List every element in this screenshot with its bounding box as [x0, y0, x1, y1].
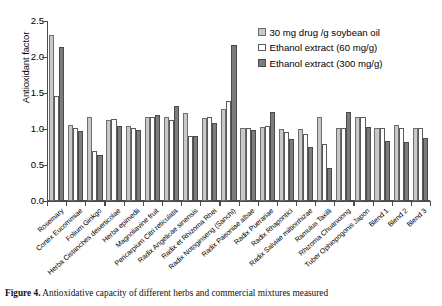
x-axis-label: Herba Cistanches deserticolae	[46, 207, 122, 277]
x-axis-label: Radix Puerariae	[233, 207, 276, 246]
x-axis-label: Blend 3	[406, 207, 429, 229]
bar	[78, 131, 83, 201]
x-tick-mark	[143, 201, 144, 206]
bar-group	[47, 21, 66, 201]
legend-label: Ethanol extract (60 mg/g)	[270, 42, 378, 53]
legend-item: 30 mg drug /g soybean oil	[258, 25, 436, 39]
bar	[155, 115, 160, 201]
x-axis-label: Folium Ginkgo	[64, 207, 103, 243]
bar	[289, 139, 294, 201]
y-tick-label: 2.5	[31, 15, 44, 26]
x-tick-mark	[47, 201, 48, 206]
chart-plot-area: Antioxidant factor 0.00.51.01.52.02.5 Ro…	[0, 0, 442, 282]
legend-swatch-icon	[258, 28, 266, 36]
x-tick-mark	[200, 201, 201, 206]
x-tick-mark	[124, 201, 125, 206]
x-axis-label: Radix et Rhizoma Rhei	[160, 207, 218, 261]
bar	[97, 155, 102, 201]
x-tick-mark	[430, 201, 431, 206]
x-tick-mark	[334, 201, 335, 206]
chart-legend: 30 mg drug /g soybean oilEthanol extract…	[258, 25, 436, 72]
bar	[212, 123, 217, 201]
bar	[59, 47, 64, 201]
legend-item: Ethanol extract (300 mg/g)	[258, 56, 436, 70]
bar	[270, 112, 275, 201]
x-tick-mark	[373, 201, 374, 206]
y-tick-label: 0.0	[31, 195, 44, 206]
x-axis-label: Rosemary	[36, 207, 65, 234]
bar-group	[124, 21, 143, 201]
bar	[385, 141, 390, 201]
bar	[117, 126, 122, 201]
x-tick-mark	[315, 201, 316, 206]
legend-label: Ethanol extract (300 mg/g)	[270, 58, 383, 69]
x-axis-label: Blend 2	[387, 207, 410, 229]
x-tick-mark	[85, 201, 86, 206]
x-axis-label: Rhizoma Chuanxiong	[297, 207, 352, 258]
x-tick-mark	[239, 201, 240, 206]
x-tick-mark	[181, 201, 182, 206]
y-tick-label: 1.5	[31, 87, 44, 98]
caption-label: Figure 4.	[5, 288, 40, 298]
bar	[423, 138, 428, 201]
x-tick-mark	[296, 201, 297, 206]
x-tick-mark	[277, 201, 278, 206]
legend-swatch-icon	[258, 44, 266, 52]
x-axis-label: Magnoliavine fruit	[115, 207, 161, 250]
bar-group	[219, 21, 238, 201]
bar	[174, 106, 179, 201]
x-axis-label: Herba epimedii	[101, 207, 141, 244]
x-tick-mark	[66, 201, 67, 206]
y-tick-label: 2.0	[31, 51, 44, 62]
x-axis-label: Radix Rhapontici	[250, 207, 295, 248]
x-axis-label: Radix Salviae miltiorrhizae	[247, 207, 313, 268]
x-axis-label: Radix Paeoniae albae	[200, 207, 256, 259]
x-tick-mark	[392, 201, 393, 206]
x-axis-label: Blend 1	[367, 207, 390, 229]
bar	[193, 136, 198, 201]
x-axis-label: Ramulus Taxilli	[293, 207, 333, 244]
y-tick-label: 0.5	[31, 159, 44, 170]
bar-group	[104, 21, 123, 201]
figure-caption: Figure 4. Antioxidative capacity of diff…	[5, 288, 439, 300]
x-tick-mark	[104, 201, 105, 206]
x-axis-label: Tuber Ophiopogonis Japon	[303, 207, 371, 269]
bar	[308, 147, 313, 201]
x-tick-mark	[353, 201, 354, 206]
y-tick-label: 1.0	[31, 123, 44, 134]
bar-group	[239, 21, 258, 201]
bar-group	[162, 21, 181, 201]
bar	[136, 130, 141, 201]
x-tick-mark	[258, 201, 259, 206]
legend-swatch-icon	[258, 59, 266, 67]
bar	[346, 112, 351, 201]
x-tick-mark	[219, 201, 220, 206]
bar-group	[200, 21, 219, 201]
legend-label: 30 mg drug /g soybean oil	[270, 27, 380, 38]
x-tick-mark	[411, 201, 412, 206]
x-tick-mark	[162, 201, 163, 206]
x-axis-label: Cortex Eucommiae	[34, 207, 84, 253]
caption-text: Antioxidative capacity of different herb…	[40, 288, 328, 298]
x-axis-label: Pericarpium Citri reticulata	[114, 207, 180, 268]
bar-group	[85, 21, 104, 201]
bar	[251, 130, 256, 201]
bar-group	[143, 21, 162, 201]
x-axis-label: Radix Notoginseng (Sanchi)	[167, 207, 237, 271]
bar	[231, 45, 236, 201]
bar	[366, 127, 371, 201]
x-axis-label: Radix Angelicae sinensis	[136, 207, 199, 265]
legend-item: Ethanol extract (60 mg/g)	[258, 41, 436, 55]
bar	[327, 168, 332, 201]
figure-container: Antioxidant factor 0.00.51.01.52.02.5 Ro…	[0, 0, 442, 306]
bar-group	[181, 21, 200, 201]
bar	[404, 142, 409, 201]
bar-group	[66, 21, 85, 201]
